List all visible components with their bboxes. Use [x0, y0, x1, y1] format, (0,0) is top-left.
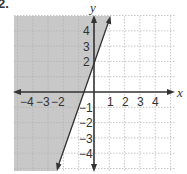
inequality-graph: x y −4 −3 −2 1 2 3 4 4 3 2 −1 −2 −3 −4 [0, 0, 187, 174]
y-tick-label: 3 [83, 40, 90, 54]
shaded-region [14, 16, 111, 171]
x-tick-label: 4 [152, 95, 159, 109]
y-tick-label: −2 [79, 116, 93, 130]
y-tick-label: −4 [79, 147, 93, 161]
y-tick-label: −3 [79, 132, 93, 146]
x-tick-label: −4 [20, 95, 34, 109]
y-tick-label: 4 [83, 24, 90, 38]
x-axis-label: x [176, 85, 183, 100]
x-tick-label: −2 [51, 95, 65, 109]
x-tick-label: 1 [107, 95, 114, 109]
y-tick-label: −1 [79, 101, 93, 115]
y-axis-label: y [88, 0, 96, 15]
y-tick-label: 2 [83, 55, 90, 69]
x-tick-label: −3 [36, 95, 50, 109]
x-tick-label: 3 [137, 95, 144, 109]
x-tick-label: 2 [122, 95, 129, 109]
